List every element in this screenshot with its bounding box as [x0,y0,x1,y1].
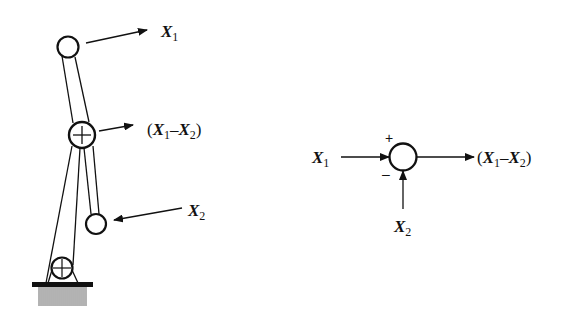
label-output-difference: (X1–X2) [477,148,532,170]
label-input-x1: X1 [311,148,329,170]
label-input-x2: X2 [393,217,411,239]
arrow-top-output [86,30,147,43]
minus-sign: – [382,166,390,182]
arrow-bottom-input [114,208,182,220]
figure-canvas: X1 (X1–X2) X2 + – X1 (X1–X2) X2 [0,0,572,318]
ground-pulley [52,258,73,279]
cord-top-to-middle [62,56,89,123]
pulley-mechanism: X1 (X1–X2) X2 [32,22,205,306]
summing-junction: + – X1 (X1–X2) X2 [311,130,532,239]
cord-middle-to-right-pulley [84,146,99,214]
summing-circle [390,144,417,171]
plus-sign: + [385,130,393,146]
arrow-middle-output [99,125,133,131]
label-difference-middle: (X1–X2) [147,120,202,142]
ground-bar [32,282,93,287]
middle-pulley [69,122,95,148]
ground-hatching [38,287,87,306]
label-x1-top: X1 [160,22,178,44]
label-x2-bottom: X2 [187,201,205,223]
right-pulley [86,214,106,234]
top-pulley [58,37,79,58]
